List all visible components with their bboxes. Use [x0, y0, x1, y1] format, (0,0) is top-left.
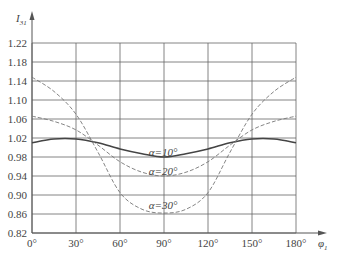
- series-label: α=10°: [149, 146, 178, 158]
- y-tick-label: 0.98: [8, 151, 28, 163]
- y-tick-label: 1.10: [8, 94, 28, 106]
- x-axis-label: φ1: [318, 237, 328, 252]
- x-tick-label: 30°: [68, 237, 83, 249]
- y-tick-label: 0.90: [8, 189, 28, 201]
- y-tick-label: 1.14: [8, 75, 28, 87]
- y-tick-label: 0.86: [8, 208, 28, 220]
- x-tick-label: 150°: [242, 237, 263, 249]
- y-tick-label: 1.06: [8, 113, 28, 125]
- x-axis-ticks: 0°30°60°90°120°150°180°: [27, 237, 306, 249]
- x-tick-label: 0°: [27, 237, 37, 249]
- x-tick-label: 90°: [156, 237, 171, 249]
- x-tick-label: 120°: [198, 237, 219, 249]
- x-tick-label: 60°: [112, 237, 127, 249]
- series-label: α=20°: [149, 165, 178, 177]
- y-axis-arrow-icon: [30, 11, 35, 20]
- y-axis-ticks: 0.820.860.900.940.981.021.061.101.141.18…: [8, 37, 28, 239]
- y-tick-label: 1.02: [8, 132, 27, 144]
- y-tick-label: 1.22: [8, 37, 27, 49]
- series-annotations: α=10°α=20°α=30°: [149, 146, 178, 210]
- x-axis-arrow-icon: [318, 231, 327, 236]
- axes: [30, 11, 328, 236]
- x-tick-label: 180°: [286, 237, 307, 249]
- y-tick-label: 0.82: [8, 227, 27, 239]
- series-label: α=30°: [149, 199, 178, 211]
- y-tick-label: 0.94: [8, 170, 28, 182]
- line-chart: 0.820.860.900.940.981.021.061.101.141.18…: [0, 0, 342, 258]
- y-axis-label: I31: [15, 12, 27, 27]
- y-tick-label: 1.18: [8, 56, 28, 68]
